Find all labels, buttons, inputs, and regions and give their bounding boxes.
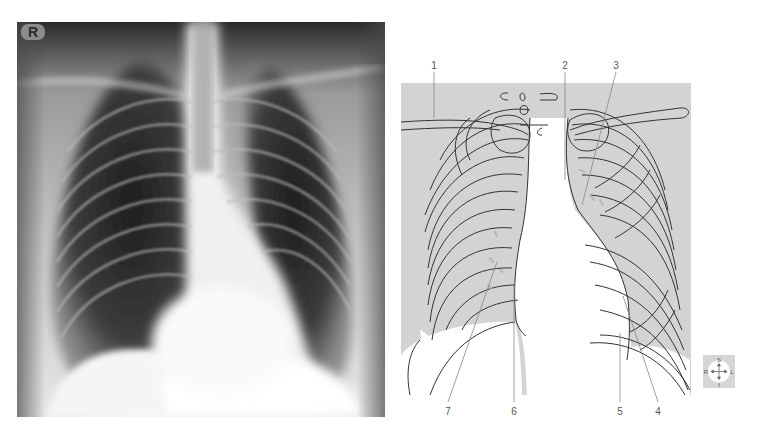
label-1: 1: [431, 60, 437, 71]
chest-line-diagram: [380, 55, 700, 427]
label-3: 3: [613, 60, 619, 71]
orientation-compass-icon: S R L I: [703, 355, 735, 388]
svg-text:R: R: [704, 369, 709, 375]
label-2: 2: [562, 60, 568, 71]
label-5: 5: [617, 406, 623, 417]
chest-xray-image: R: [17, 22, 385, 417]
label-7: 7: [445, 406, 451, 417]
label-6: 6: [511, 406, 517, 417]
r-marker: R: [21, 24, 45, 40]
svg-text:R: R: [28, 24, 38, 40]
label-4: 4: [655, 406, 661, 417]
svg-text:S: S: [717, 357, 721, 363]
